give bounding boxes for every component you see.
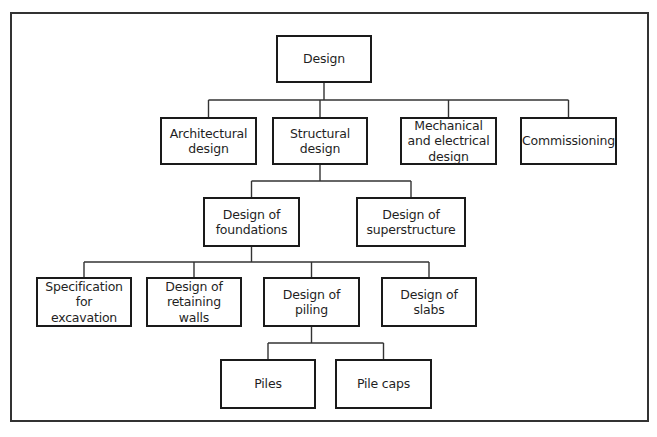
- node-architectural: Architectural design: [160, 117, 257, 165]
- node-structural: Structural design: [272, 117, 368, 165]
- node-commissioning: Commissioning: [520, 117, 617, 165]
- node-mechanical: Mechanical and electrical design: [400, 117, 497, 165]
- node-piling: Design of piling: [263, 277, 360, 327]
- node-pile-caps: Pile caps: [335, 359, 432, 409]
- node-retaining: Design of retaining walls: [146, 277, 242, 327]
- node-excavation: Specification for excavation: [36, 277, 132, 327]
- node-design: Design: [276, 35, 372, 83]
- node-slabs: Design of slabs: [381, 277, 477, 327]
- node-superstructure: Design of superstructure: [356, 197, 466, 247]
- node-piles: Piles: [220, 359, 316, 409]
- node-foundations: Design of foundations: [203, 197, 300, 247]
